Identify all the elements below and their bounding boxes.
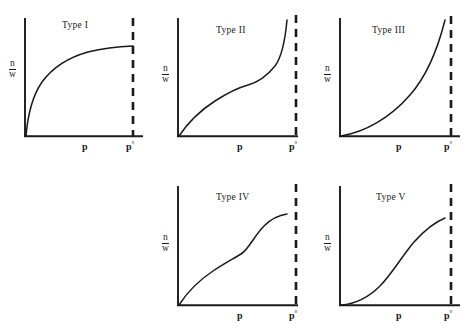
x-axis-label-type-1: p bbox=[82, 141, 88, 152]
x-axis-label-type-4: p bbox=[237, 310, 243, 321]
x-axis-saturation-label-type-2: p° bbox=[289, 141, 297, 152]
x-axis-saturation-label-type-5: p° bbox=[444, 310, 452, 321]
panel-title-type-1: Type I bbox=[62, 20, 88, 30]
x-axis-label-type-3: p bbox=[396, 141, 402, 152]
panel-title-type-2: Type II bbox=[216, 25, 246, 35]
saturation-sup: ° bbox=[132, 140, 135, 148]
panel-type-3: Type III n w p p° bbox=[310, 0, 465, 165]
y-axis-label-type-3: n w bbox=[324, 64, 331, 84]
panel-type-5: Type V n w p p° bbox=[310, 164, 465, 329]
saturation-sup: ° bbox=[295, 140, 298, 148]
isotherm-curve-type-5 bbox=[341, 218, 445, 305]
saturation-sup: ° bbox=[295, 309, 298, 317]
panel-title-type-5: Type V bbox=[376, 192, 406, 202]
y-axis-denominator: w bbox=[9, 70, 16, 80]
y-axis-label-type-1: n w bbox=[9, 59, 16, 79]
y-axis-denominator: w bbox=[324, 75, 331, 85]
y-axis-label-type-2: n w bbox=[162, 64, 169, 84]
x-axis-saturation-label-type-4: p° bbox=[289, 310, 297, 321]
x-axis-saturation-label-type-1: p° bbox=[126, 141, 134, 152]
isotherm-figure: Type I n w p p° Type II n w p p° bbox=[0, 0, 465, 329]
x-axis-label-type-5: p bbox=[396, 310, 402, 321]
y-axis-label-type-4: n w bbox=[162, 233, 169, 253]
saturation-sup: ° bbox=[450, 309, 453, 317]
type-5-plot bbox=[310, 164, 465, 329]
isotherm-curve-type-3 bbox=[341, 20, 445, 136]
panel-title-type-4: Type IV bbox=[216, 192, 249, 202]
type-4-plot bbox=[153, 164, 308, 329]
panel-type-2: Type II n w p p° bbox=[153, 0, 308, 165]
isotherm-curve-type-1 bbox=[26, 46, 133, 136]
x-axis-label-type-2: p bbox=[237, 141, 243, 152]
panel-type-4: Type IV n w p p° bbox=[153, 164, 308, 329]
panel-title-type-3: Type III bbox=[372, 25, 405, 35]
y-axis-denominator: w bbox=[162, 244, 169, 254]
isotherm-curve-type-2 bbox=[179, 20, 287, 136]
saturation-sup: ° bbox=[450, 140, 453, 148]
y-axis-denominator: w bbox=[324, 244, 331, 254]
panel-type-1: Type I n w p p° bbox=[0, 0, 155, 165]
y-axis-label-type-5: n w bbox=[324, 233, 331, 253]
isotherm-curve-type-4 bbox=[179, 214, 287, 305]
y-axis-denominator: w bbox=[162, 75, 169, 85]
x-axis-saturation-label-type-3: p° bbox=[444, 141, 452, 152]
